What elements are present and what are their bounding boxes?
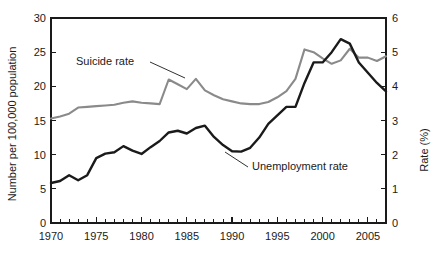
- suicide-rate-annotation-leader: [150, 62, 185, 78]
- y-tick-label: 10: [34, 149, 46, 161]
- y-tick-label: 25: [34, 46, 46, 58]
- y2-tick-label: 3: [392, 115, 398, 127]
- x-tick-label: 2000: [310, 230, 334, 242]
- y-tick-label: 5: [40, 183, 46, 195]
- y2-tick-label: 5: [392, 46, 398, 58]
- y-axis-ticks: 051015202530: [34, 12, 56, 229]
- y-axis-title: Number per 100,000 population: [6, 47, 18, 202]
- dual-axis-line-chart: 051015202530 0123456 1970197519801985199…: [0, 0, 440, 264]
- y-tick-label: 15: [34, 115, 46, 127]
- x-tick-label: 1970: [39, 230, 63, 242]
- plot-border: [51, 18, 386, 223]
- annotation-layer: Suicide rateUnemployment rate: [76, 55, 348, 172]
- y-tick-label: 20: [34, 80, 46, 92]
- unemployment-rate-annotation-leader: [225, 152, 248, 167]
- unemployment-rate-annotation-label: Unemployment rate: [252, 160, 348, 172]
- x-tick-label: 1975: [84, 230, 108, 242]
- y2-tick-label: 0: [392, 217, 398, 229]
- y2-axis-ticks: 0123456: [381, 12, 398, 229]
- y2-tick-label: 4: [392, 80, 398, 92]
- y2-tick-label: 6: [392, 12, 398, 24]
- y-tick-label: 0: [40, 217, 46, 229]
- x-tick-label: 2005: [356, 230, 380, 242]
- y2-tick-label: 2: [392, 149, 398, 161]
- x-tick-label: 1990: [220, 230, 244, 242]
- x-tick-label: 1980: [129, 230, 153, 242]
- x-tick-label: 1995: [265, 230, 289, 242]
- y-tick-label: 30: [34, 12, 46, 24]
- y2-axis-title: Rate (%): [418, 128, 430, 171]
- suicide-rate-annotation-label: Suicide rate: [76, 55, 134, 67]
- x-tick-label: 1985: [175, 230, 199, 242]
- chart-figure: 051015202530 0123456 1970197519801985199…: [0, 0, 440, 264]
- x-axis-ticks: 19701975198019851990199520002005: [39, 217, 386, 242]
- plot-frame: [51, 18, 386, 223]
- y2-tick-label: 1: [392, 183, 398, 195]
